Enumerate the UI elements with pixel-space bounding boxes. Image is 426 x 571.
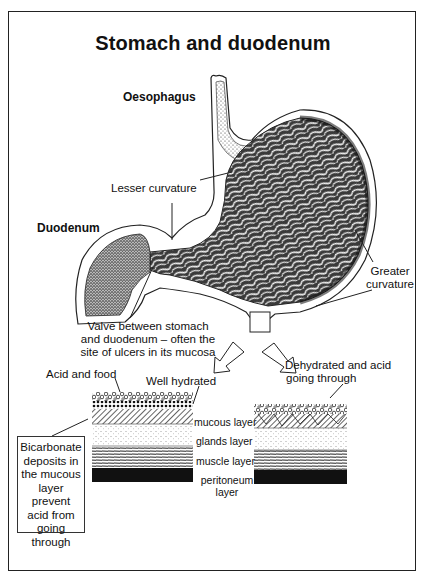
note-line: through (18, 536, 84, 550)
label-peritoneum-line1: peritoneum (196, 474, 258, 486)
label-valve: Valve between stomach and duodenum – oft… (68, 320, 228, 359)
label-mucous-layer: mucous layer (194, 416, 256, 429)
label-dehydrated: Dehydrated and acid going through (285, 359, 410, 385)
label-lesser-curvature: Lesser curvature (111, 182, 197, 195)
label-valve-line2: and duodenum – often the (68, 333, 228, 346)
note-line: layer prevent (18, 482, 84, 509)
label-greater-curvature: Greater curvature (357, 265, 423, 291)
note-line: the mucous (18, 468, 84, 482)
note-line: acid from (18, 509, 84, 523)
label-acid-and-food: Acid and food (46, 368, 116, 381)
label-dehydrated-line1: Dehydrated and acid (285, 359, 410, 372)
label-well-hydrated: Well hydrated (146, 375, 216, 388)
stomach-body (150, 118, 368, 306)
label-greater-curvature-line1: Greater (357, 265, 423, 278)
sample-marker (250, 312, 270, 332)
note-line: deposits in (18, 455, 84, 469)
label-peritoneum-line2: layer (196, 486, 258, 498)
damaged-tissue-block (254, 404, 347, 484)
note-line: Bicarbonate (18, 441, 84, 455)
label-valve-line3: site of ulcers in its mucosa (68, 346, 228, 359)
label-valve-line1: Valve between stomach (68, 320, 228, 333)
bicarbonate-note-box: Bicarbonate deposits in the mucous layer… (17, 436, 85, 533)
label-muscle-layer: muscle layer (196, 455, 255, 468)
label-peritoneum-layer: peritoneum layer (196, 474, 258, 498)
label-dehydrated-line2: going through (285, 372, 410, 385)
label-oesophagus: Oesophagus (123, 91, 196, 104)
healthy-tissue-block (92, 392, 193, 482)
note-line: going (18, 522, 84, 536)
label-duodenum: Duodenum (37, 222, 100, 235)
label-greater-curvature-line2: curvature (357, 278, 423, 291)
label-glands-layer: glands layer (196, 435, 253, 448)
